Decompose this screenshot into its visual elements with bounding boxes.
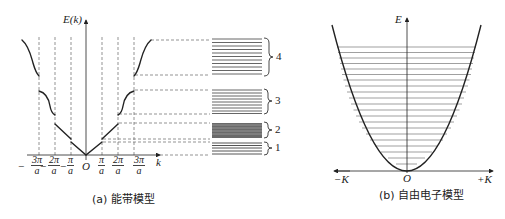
tick-neg-2pi-over-a: 2πa <box>48 155 60 176</box>
k-axis-label-a: k <box>156 156 161 168</box>
e-axis-label-b: E <box>395 13 402 25</box>
zone-boundary-lines <box>39 37 134 155</box>
band-curves <box>22 40 151 155</box>
tick-sign-neg-3pi: − <box>18 160 24 172</box>
band-label-3: 3 <box>275 94 281 106</box>
level-stack-2 <box>212 123 262 138</box>
e-axis-label-a: E(k) <box>63 13 82 25</box>
figure-b <box>332 18 493 173</box>
level-stack-3 <box>212 90 262 114</box>
k-left-label: −K <box>334 173 349 185</box>
tick-3pi-over-a: 3πa <box>133 155 145 176</box>
projection-lines <box>103 40 210 155</box>
k-right-label: +K <box>477 173 492 185</box>
caption-a: (a) 能带模型 <box>92 190 155 206</box>
origin-label-a: O <box>82 160 90 172</box>
tick-sign-neg-2pi: − <box>40 160 46 172</box>
tick-2pi-over-a: 2πa <box>112 155 124 176</box>
figure-a <box>22 20 273 160</box>
caption-b: (b) 自由电子模型 <box>379 186 464 202</box>
tick-neg-pi-over-a: πa <box>67 155 74 176</box>
level-stack-1 <box>212 143 262 154</box>
origin-label-b: O <box>403 172 411 184</box>
band-braces <box>264 38 273 155</box>
band-label-4: 4 <box>276 50 282 62</box>
band-label-2: 2 <box>275 123 281 135</box>
band-label-1: 1 <box>275 141 281 153</box>
level-stack-4 <box>212 39 262 74</box>
tick-pi-over-a: πa <box>98 155 105 176</box>
tick-sign-neg-pi: − <box>60 160 66 172</box>
free-electron-levels <box>337 47 476 164</box>
